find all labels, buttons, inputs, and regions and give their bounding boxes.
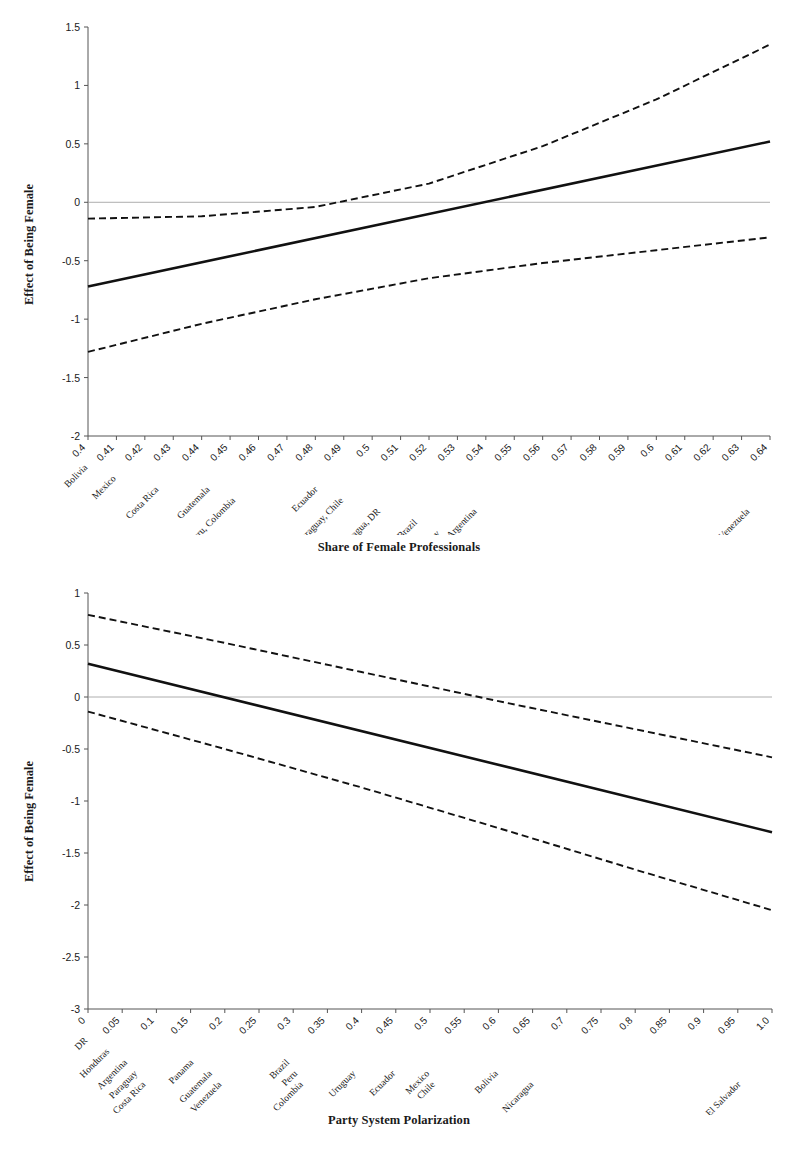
y-tick-label: -1.5 — [62, 847, 80, 859]
y-tick-label: 1 — [74, 587, 80, 599]
x-tick-label: 0.85 — [647, 1014, 669, 1036]
country-annotation: Guatemala — [174, 483, 212, 521]
chart-canvas-1: 1.510.50-0.5-1-1.5-20.40.410.420.430.440… — [0, 0, 798, 535]
x-tick-label: 0.58 — [577, 441, 599, 463]
x-tick-label: 0.55 — [492, 441, 514, 463]
x-tick-label: 0.1 — [138, 1014, 156, 1032]
country-annotation: Argentina — [444, 505, 479, 535]
chart-share-of-female-professionals: 1.510.50-0.5-1-1.5-20.40.410.420.430.440… — [0, 0, 798, 570]
country-annotation: Bolivia — [472, 1067, 500, 1095]
x-tick-label: 0.62 — [691, 441, 713, 463]
y-tick-label: -1.5 — [62, 372, 80, 384]
y-tick-label: -2 — [71, 899, 80, 911]
country-annotation: DR — [72, 1034, 90, 1052]
plot-area-2: 10.50-0.5-1-1.5-2-2.5-300.050.10.150.20.… — [0, 570, 798, 1115]
x-tick-label: 0.63 — [719, 441, 741, 463]
x-tick-label: 0.47 — [265, 441, 287, 463]
x-tick-label: 0.3 — [275, 1014, 293, 1032]
country-annotation: Uruguay — [326, 1067, 358, 1099]
y-tick-label: 0 — [74, 691, 80, 703]
y-tick-label: 1 — [74, 79, 80, 91]
y-tick-label: -1 — [71, 313, 80, 325]
country-annotation: Ecuador — [367, 1067, 398, 1098]
y-tick-label: 0.5 — [65, 138, 80, 150]
x-tick-label: 0.46 — [236, 441, 258, 463]
plot-area-1: 1.510.50-0.5-1-1.5-20.40.410.420.430.440… — [0, 0, 798, 535]
x-tick-label: 0.53 — [435, 441, 457, 463]
x-tick-label: 0.43 — [151, 441, 173, 463]
x-tick-label: 0.41 — [94, 441, 116, 463]
country-annotation: El Salvador — [703, 1078, 743, 1115]
x-tick-label: 0.8 — [617, 1014, 635, 1032]
country-annotation: Nicaragua, DR — [334, 505, 383, 535]
country-annotation: Mexico — [89, 472, 118, 501]
x-tick-label: 0.54 — [464, 441, 486, 463]
x-tick-label: 0.5 — [412, 1014, 430, 1032]
country-annotation: Ecuador — [289, 483, 320, 514]
y-tick-label: 0.5 — [65, 639, 80, 651]
x-tick-label: 0.44 — [180, 441, 202, 463]
confidence-bound-line — [88, 615, 772, 757]
x-tick-label: 0.4 — [343, 1014, 361, 1032]
x-tick-label: 0.95 — [716, 1014, 738, 1036]
y-axis-title-1: Effect of Being Female — [22, 184, 37, 305]
point-estimate-line — [88, 142, 770, 287]
x-tick-label: 0.49 — [322, 441, 344, 463]
x-tick-label: 1.0 — [754, 1014, 772, 1032]
x-axis-title-1: Share of Female Professionals — [0, 540, 798, 555]
y-tick-label: 1.5 — [65, 21, 80, 33]
x-tick-label: 0.45 — [374, 1014, 396, 1036]
x-tick-label: 0.2 — [207, 1014, 225, 1032]
x-tick-label: 0.55 — [442, 1014, 464, 1036]
x-tick-label: 0.59 — [606, 441, 628, 463]
x-axis-title-2: Party System Polarization — [0, 1113, 798, 1128]
country-annotation: Venezuela — [716, 505, 752, 535]
x-tick-label: 0.61 — [663, 441, 685, 463]
x-tick-label: 0.42 — [123, 441, 145, 463]
confidence-bound-line — [88, 45, 770, 219]
y-tick-label: -0.5 — [62, 743, 80, 755]
x-tick-label: 0 — [76, 1014, 88, 1026]
y-axis-title-2: Effect of Being Female — [22, 761, 37, 882]
x-tick-label: 0.48 — [293, 441, 315, 463]
y-tick-label: -1 — [71, 795, 80, 807]
y-tick-label: -2 — [71, 430, 80, 442]
y-tick-label: -2.5 — [62, 951, 80, 963]
y-tick-label: -3 — [71, 1003, 80, 1015]
x-tick-label: 0.6 — [638, 441, 656, 459]
x-tick-label: 0.6 — [480, 1014, 498, 1032]
x-tick-label: 0.52 — [407, 441, 429, 463]
x-tick-label: 0.64 — [748, 441, 770, 463]
country-annotation: Costa Rica — [123, 483, 161, 521]
x-tick-label: 0.56 — [521, 441, 543, 463]
x-tick-label: 0.5 — [354, 441, 372, 459]
x-tick-label: 0.57 — [549, 441, 571, 463]
x-tick-label: 0.65 — [510, 1014, 532, 1036]
confidence-bound-line — [88, 712, 772, 911]
y-tick-label: -0.5 — [62, 255, 80, 267]
chart-party-system-polarization: 10.50-0.5-1-1.5-2-2.5-300.050.10.150.20.… — [0, 570, 798, 1149]
x-tick-label: 0.25 — [237, 1014, 259, 1036]
x-tick-label: 0.05 — [100, 1014, 122, 1036]
x-tick-label: 0.35 — [305, 1014, 327, 1036]
confidence-bound-line — [88, 237, 770, 352]
y-tick-label: 0 — [74, 196, 80, 208]
x-tick-label: 0.7 — [549, 1014, 567, 1032]
x-tick-label: 0.9 — [685, 1014, 703, 1032]
x-tick-label: 0.15 — [168, 1014, 190, 1036]
x-tick-label: 0.45 — [208, 441, 230, 463]
chart-canvas-2: 10.50-0.5-1-1.5-2-2.5-300.050.10.150.20.… — [0, 570, 798, 1115]
x-tick-label: 0.51 — [378, 441, 400, 463]
x-tick-label: 0.75 — [579, 1014, 601, 1036]
country-annotation: Bolivia — [62, 461, 90, 489]
country-annotation: Nicaragua — [500, 1078, 536, 1114]
x-tick-label: 0.4 — [70, 441, 88, 459]
